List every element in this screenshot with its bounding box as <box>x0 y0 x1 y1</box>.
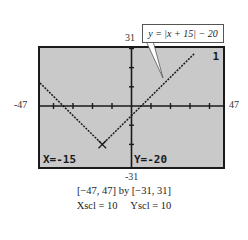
function-callout: y = |x + 15| − 20 <box>142 24 224 43</box>
xmax-label: 47 <box>229 99 239 110</box>
ymax-label: 31 <box>125 32 135 43</box>
scale-caption: Xscl = 10 Yscl = 10 <box>0 200 248 211</box>
ymin-label: -31 <box>125 171 138 182</box>
xmin-label: -47 <box>14 99 27 110</box>
window-caption: [−47, 47] by [−31, 31] <box>0 185 248 196</box>
